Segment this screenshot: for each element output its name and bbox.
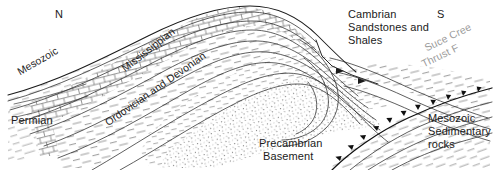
unit-label-mesozoic-sed-line3: rocks	[428, 138, 455, 151]
unit-label-cambrian-line2: Sandstones and	[348, 21, 429, 34]
unit-label-permian: Permian	[11, 114, 53, 127]
compass-label-north: N	[55, 8, 63, 21]
unit-label-precambrian-line1: Precambrian	[259, 137, 322, 150]
compass-label-south: S	[437, 8, 444, 21]
unit-label-cambrian-line1: Cambrian	[348, 8, 397, 21]
unit-label-precambrian-line2: Basement	[263, 150, 313, 163]
unit-label-cambrian-line3: Shales	[348, 34, 382, 47]
unit-label-mesozoic-sed-line2: Sedimentary	[428, 125, 491, 138]
geologic-cross-section-figure: N S Mesozoic Mississippian Ordovician an…	[0, 0, 493, 170]
unit-label-mesozoic-sed-line1: Mesozoic	[428, 112, 475, 125]
